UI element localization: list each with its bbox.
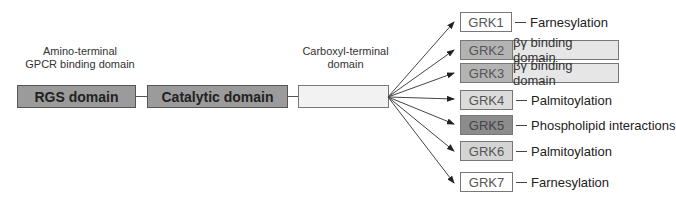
arrow-grk1 (388, 22, 454, 97)
grk7-box: GRK7 (460, 172, 513, 192)
grk3-row: GRK3 βγ binding domain (460, 63, 619, 83)
grk1-row: GRK1 Farnesylation (460, 12, 608, 32)
grk5-label: GRK5 (469, 118, 504, 133)
dash-line (516, 125, 527, 126)
dash-line (516, 100, 527, 101)
grk2-box: GRK2 (460, 40, 513, 60)
grk6-box: GRK6 (460, 141, 513, 161)
grk7-row: GRK7 Farnesylation (460, 172, 609, 192)
arrow-grk7 (388, 97, 454, 183)
grk6-row: GRK6 Palmitoylation (460, 141, 612, 161)
grk2-bg-binding-domain: βγ binding domain (513, 40, 619, 60)
arrow-grk4 (388, 97, 454, 99)
grk5-row: GRK5 Phospholipid interactions (460, 115, 676, 135)
grk6-feature: Palmitoylation (531, 144, 612, 159)
grk3-feature: βγ binding domain (513, 58, 618, 88)
dash-line (515, 22, 526, 23)
arrow-grk2 (388, 50, 454, 97)
grk1-box: GRK1 (460, 12, 512, 32)
grk5-box: GRK5 (460, 115, 513, 135)
grk2-row: GRK2 βγ binding domain (460, 40, 619, 60)
arrow-grk6 (388, 97, 454, 151)
dash-line (516, 151, 527, 152)
grk4-feature: Palmitoylation (531, 93, 612, 108)
grk4-row: GRK4 Palmitoylation (460, 90, 612, 110)
grk1-feature: Farnesylation (530, 15, 608, 30)
grk5-feature: Phospholipid interactions (531, 118, 676, 133)
grk4-box: GRK4 (460, 90, 513, 110)
dash-line (516, 182, 527, 183)
grk1-label: GRK1 (468, 15, 503, 30)
grk3-label: GRK3 (469, 66, 504, 81)
grk3-bg-binding-domain: βγ binding domain (513, 63, 619, 83)
grk7-label: GRK7 (469, 175, 504, 190)
grk7-feature: Farnesylation (531, 175, 609, 190)
grk6-label: GRK6 (469, 144, 504, 159)
grk2-label: GRK2 (469, 43, 504, 58)
grk3-box: GRK3 (460, 63, 513, 83)
grk4-label: GRK4 (469, 93, 504, 108)
